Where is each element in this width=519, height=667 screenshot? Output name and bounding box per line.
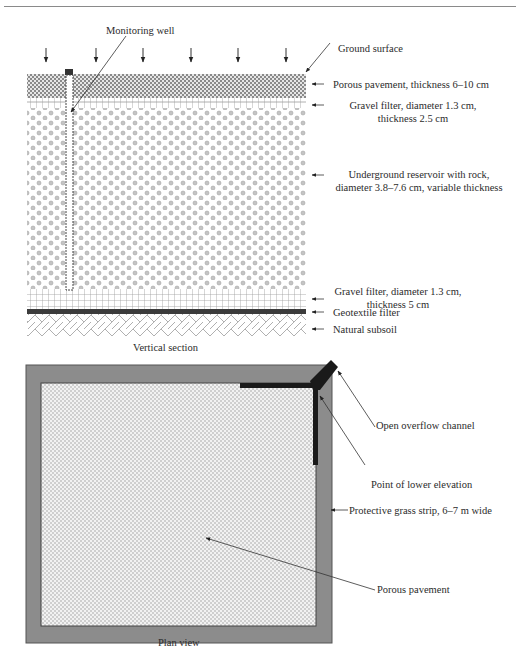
label-subsoil: Natural subsoil <box>333 323 397 336</box>
label-lower-elevation: Point of lower elevation <box>371 478 472 491</box>
label-overflow-channel: Open overflow channel <box>376 419 475 432</box>
subsoil-layer <box>27 314 306 336</box>
gravel-filter-bottom-layer <box>27 289 306 309</box>
caption-vertical-section: Vertical section <box>133 341 198 354</box>
label-porous-pavement-layer: Porous pavement, thickness 6–10 cm <box>333 78 489 91</box>
caption-plan-view: Plan view <box>158 636 200 649</box>
monitoring-well <box>66 75 73 290</box>
label-ground-surface: Ground surface <box>338 42 403 55</box>
label-reservoir: Underground reservoir with rock, diamete… <box>326 168 512 194</box>
plan-porous-pavement <box>41 383 316 626</box>
monitoring-well-cap <box>65 69 73 75</box>
reservoir-line1: Underground reservoir with rock, <box>326 168 512 181</box>
label-grass-strip: Protective grass strip, 6–7 m wide <box>349 504 492 517</box>
label-geotextile: Geotextile filter <box>333 306 400 319</box>
gravel-filter-top-line1: Gravel filter, diameter 1.3 cm, <box>333 99 493 112</box>
label-monitoring-well: Monitoring well <box>106 24 175 37</box>
geotextile-layer <box>27 309 306 314</box>
gravel-filter-top-line2: thickness 2.5 cm <box>333 112 493 125</box>
gravel-filter-bottom-line1: Gravel filter, diameter 1.3 cm, <box>333 285 463 298</box>
reservoir-line2: diameter 3.8–7.6 cm, variable thickness <box>326 181 512 194</box>
label-plan-porous-pavement: Porous pavement <box>377 583 450 596</box>
label-gravel-filter-top: Gravel filter, diameter 1.3 cm, thicknes… <box>333 99 493 125</box>
rain-arrows <box>46 48 286 62</box>
